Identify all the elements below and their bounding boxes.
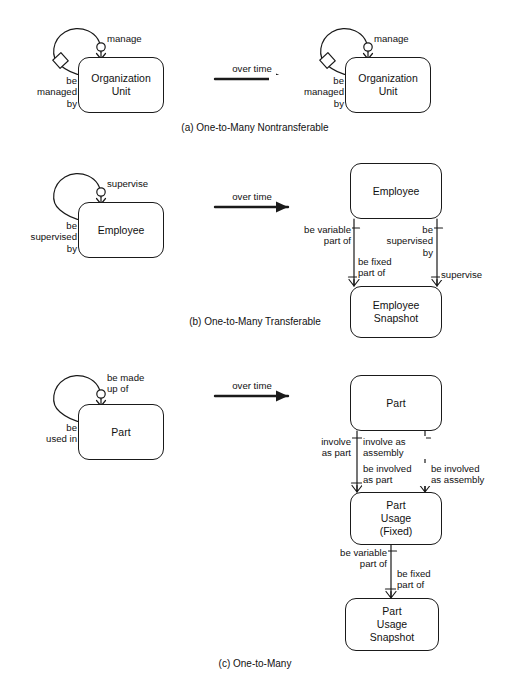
- entity-label: Part Usage (Fixed): [380, 499, 413, 537]
- entity-employee-after[interactable]: Employee: [350, 163, 442, 219]
- nontransferable-marker-a-right: [320, 53, 336, 69]
- entity-label: Employee: [373, 185, 420, 198]
- edge-label-be-involved-as-assembly-c: be involved as assembly: [430, 463, 506, 486]
- nontransferable-marker-a-left: [53, 53, 69, 69]
- edge-label-be-supervised-by-b: be supervised by: [368, 224, 434, 258]
- edge-label-be-fixed-part-of-c: be fixed part of: [396, 568, 460, 591]
- optionality-circle-a-right-top: [364, 43, 372, 51]
- over-time-arrow-b: [215, 202, 288, 213]
- loop-label-be-supervised-by-before: be supervised by: [2, 220, 78, 254]
- diagram-canvas: Organization Unit manage be managed by o…: [0, 0, 510, 686]
- caption-text: (a) One-to-Many Nontransferable: [181, 122, 328, 133]
- edge-label-be-involved-as-part-c: be involved as part: [362, 463, 430, 486]
- caption-panel-b: (b) One-to-Many Transferable: [0, 316, 510, 327]
- over-time-arrow-c: [215, 391, 288, 402]
- over-time-label-a: over time: [211, 63, 293, 74]
- entity-part-after[interactable]: Part: [350, 375, 442, 431]
- caption-panel-a: (a) One-to-Many Nontransferable: [0, 122, 510, 133]
- entity-employee-before[interactable]: Employee: [78, 202, 164, 258]
- entity-part-before[interactable]: Part: [78, 404, 164, 460]
- entity-label: Part: [386, 397, 405, 410]
- entity-label: Employee: [98, 224, 145, 237]
- edge-label-involve-as-assembly-c: involve as assembly: [362, 436, 426, 459]
- entity-organization-unit-after[interactable]: Organization Unit: [345, 57, 431, 113]
- loop-label-be-made-up-of-before: be made up of: [106, 372, 178, 395]
- crowsfoot-b-left-bottom: [349, 280, 359, 287]
- optionality-circle-a-left-top: [97, 43, 105, 51]
- over-time-label-c: over time: [211, 380, 293, 391]
- crowsfoot-b-right-bottom: [432, 280, 442, 287]
- edge-label-be-variable-part-of-c: be variable part of: [318, 547, 388, 570]
- loop-label-be-used-in-before: be used in: [2, 422, 78, 445]
- optionality-circle-b-left-top: [97, 188, 105, 196]
- entity-part-usage-snapshot[interactable]: Part Usage Snapshot: [345, 598, 439, 651]
- entity-label: Part: [111, 426, 130, 439]
- entity-label: Organization Unit: [358, 72, 418, 98]
- loop-label-supervise-before: supervise: [106, 178, 178, 189]
- entity-part-usage-fixed[interactable]: Part Usage (Fixed): [350, 492, 442, 545]
- caption-text: (b) One-to-Many Transferable: [189, 316, 321, 327]
- caption-panel-c: (c) One-to-Many: [0, 658, 510, 669]
- entity-label: Organization Unit: [91, 72, 151, 98]
- loop-label-manage-after: manage: [373, 33, 445, 44]
- optionality-circle-c-left-top: [97, 390, 105, 398]
- edge-label-involve-as-part-c: involve as part: [290, 436, 352, 459]
- over-time-label-b: over time: [211, 191, 293, 202]
- entity-employee-snapshot[interactable]: Employee Snapshot: [350, 286, 442, 338]
- entity-label: Part Usage Snapshot: [370, 605, 414, 643]
- edge-label-supervise-b: supervise: [440, 269, 504, 280]
- edge-label-be-variable-part-of-b: be variable part of: [284, 224, 352, 247]
- loop-label-manage-before: manage: [106, 33, 178, 44]
- edge-label-be-fixed-part-of-b: be fixed part of: [357, 256, 421, 279]
- loop-label-be-managed-by-after: be managed by: [269, 75, 345, 109]
- caption-text: (c) One-to-Many: [219, 658, 292, 669]
- loop-label-be-managed-by-before: be managed by: [2, 75, 78, 109]
- entity-organization-unit-before[interactable]: Organization Unit: [78, 57, 164, 113]
